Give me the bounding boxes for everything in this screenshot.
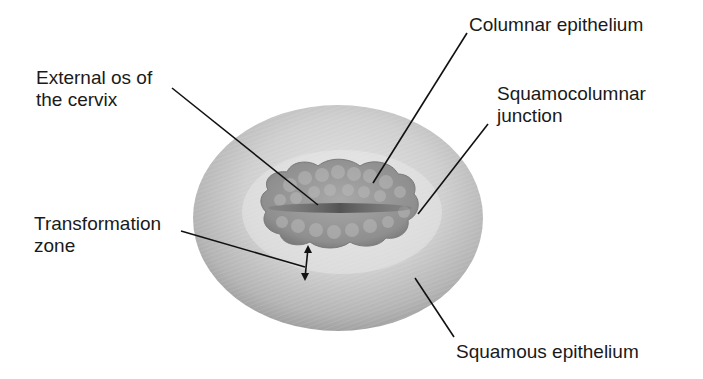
label-transformation-zone: Transformation zone	[34, 213, 161, 257]
label-columnar-epithelium-text: Columnar epithelium	[469, 14, 643, 36]
cervix-illustration	[0, 0, 703, 379]
label-external-os: External os of the cervix	[36, 67, 152, 111]
columnar-epithelium-region	[261, 159, 418, 248]
label-columnar-epithelium: Columnar epithelium	[469, 14, 643, 36]
label-squamocolumnar-junction: Squamocolumnar junction	[497, 83, 646, 127]
label-transformation-line1: Transformation	[34, 213, 161, 235]
label-external-os-line2: the cervix	[36, 89, 152, 111]
label-transformation-line2: zone	[34, 235, 161, 257]
label-squamocolumnar-line1: Squamocolumnar	[497, 83, 646, 105]
label-squamous-epithelium: Squamous epithelium	[456, 341, 639, 363]
external-os-slit	[268, 203, 412, 213]
label-squamous-epithelium-text: Squamous epithelium	[456, 341, 639, 363]
label-squamocolumnar-line2: junction	[497, 105, 646, 127]
label-external-os-line1: External os of	[36, 67, 152, 89]
